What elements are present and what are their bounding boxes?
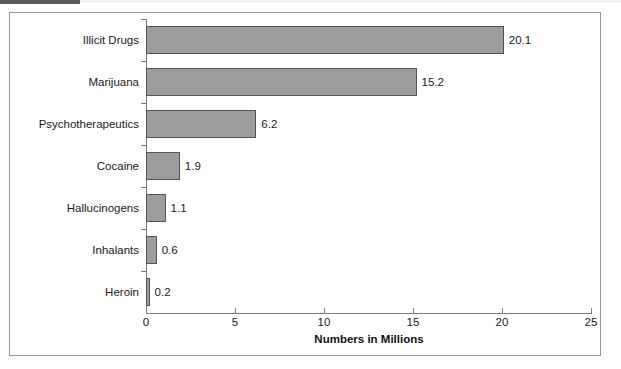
x-axis-tick <box>591 308 592 313</box>
bar-value-label: 0.6 <box>162 244 178 256</box>
bar <box>146 110 256 138</box>
y-axis-tick <box>141 145 146 146</box>
category-label: Hallucinogens <box>67 202 139 214</box>
x-axis-tick <box>146 308 147 313</box>
category-label: Marijuana <box>89 76 140 88</box>
bar <box>146 68 417 96</box>
x-axis-tick <box>502 308 503 313</box>
bar <box>146 278 150 306</box>
x-tick-label: 25 <box>571 316 611 329</box>
category-label: Psychotherapeutics <box>39 118 139 130</box>
y-axis-tick <box>141 19 146 20</box>
bar-chart-plot-area: 20.115.26.21.91.10.60.2 Illicit DrugsMar… <box>0 0 621 369</box>
bar-value-label: 20.1 <box>509 34 531 46</box>
bar <box>146 26 504 54</box>
x-axis-tick <box>413 308 414 313</box>
x-tick-label: 20 <box>482 316 522 329</box>
x-axis-line <box>146 313 592 314</box>
x-axis-title: Numbers in Millions <box>146 333 592 345</box>
x-tick-label: 0 <box>126 316 166 329</box>
category-label: Heroin <box>105 286 139 298</box>
bar <box>146 236 157 264</box>
category-label: Inhalants <box>92 244 139 256</box>
y-axis-tick <box>141 229 146 230</box>
bar <box>146 152 180 180</box>
y-axis-tick <box>141 103 146 104</box>
bar-value-label: 1.1 <box>171 202 187 214</box>
x-tick-label: 15 <box>393 316 433 329</box>
bar-value-label: 0.2 <box>155 286 171 298</box>
x-axis-tick <box>235 308 236 313</box>
bar-value-label: 1.9 <box>185 160 201 172</box>
category-label: Cocaine <box>97 160 139 172</box>
bar <box>146 194 166 222</box>
x-tick-label: 5 <box>215 316 255 329</box>
y-axis-tick <box>141 61 146 62</box>
y-axis-tick <box>141 271 146 272</box>
x-axis-tick <box>324 308 325 313</box>
x-tick-label: 10 <box>304 316 344 329</box>
y-axis-tick <box>141 187 146 188</box>
bar-value-label: 15.2 <box>422 76 444 88</box>
bar-value-label: 6.2 <box>261 118 277 130</box>
category-label: Illicit Drugs <box>83 34 139 46</box>
